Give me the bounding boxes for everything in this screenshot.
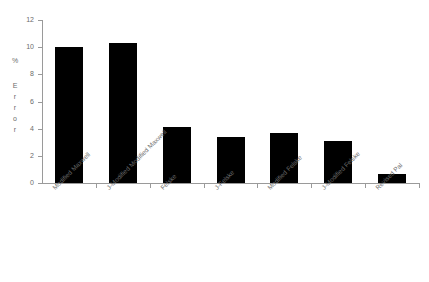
x-axis-line xyxy=(42,183,419,184)
y-tick-label: 10 xyxy=(26,42,34,51)
y-tick: 10 xyxy=(38,47,43,48)
y-axis-title-char-e: E xyxy=(6,80,24,91)
y-tick-label: 12 xyxy=(26,15,34,24)
plot-area: 024681012 xyxy=(42,20,419,184)
bar xyxy=(163,127,191,183)
y-axis-title-percent: % xyxy=(6,55,24,66)
y-axis-title: % E r r o r xyxy=(6,55,24,135)
y-tick-label: 6 xyxy=(30,97,34,106)
y-tick: 12 xyxy=(38,20,43,21)
y-axis-title-char-r1: r xyxy=(6,91,24,102)
y-tick-label: 8 xyxy=(30,69,34,78)
y-tick-label: 0 xyxy=(30,178,34,187)
x-axis-labels: Modified MaxwellJ-Modified Modified Maxw… xyxy=(42,186,429,282)
y-tick: 4 xyxy=(38,129,43,130)
y-tick: 0 xyxy=(38,183,43,184)
y-axis-title-char-r3: r xyxy=(6,124,24,135)
y-tick-label: 4 xyxy=(30,124,34,133)
y-tick-label: 2 xyxy=(30,151,34,160)
y-tick: 6 xyxy=(38,102,43,103)
y-axis-title-char-r2: r xyxy=(6,102,24,113)
y-axis-title-char-o: o xyxy=(6,113,24,124)
y-tick: 2 xyxy=(38,156,43,157)
bar-chart: % E r r o r 024681012 Modified MaxwellJ-… xyxy=(0,0,429,282)
y-tick: 8 xyxy=(38,74,43,75)
